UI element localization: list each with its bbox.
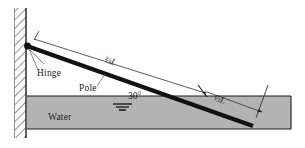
diagram-canvas: Hinge Pole Water 30° ⅔L ⅓L bbox=[0, 0, 305, 148]
hinge-label: Hinge bbox=[37, 68, 61, 78]
physics-diagram-figure: Hinge Pole Water 30° ⅔L ⅓L bbox=[0, 0, 305, 148]
water-label: Water bbox=[48, 112, 72, 122]
dimension-line-upper bbox=[34, 39, 202, 92]
angle-label: 30° bbox=[128, 91, 142, 101]
hinge-leader-line-2 bbox=[29, 49, 38, 70]
wall-hatching bbox=[15, 8, 27, 138]
pole-leader-line bbox=[97, 74, 105, 86]
hinge-pin-dot bbox=[24, 43, 31, 50]
dimension-extension-tick-left bbox=[34, 31, 39, 40]
upper-length-label: ⅔L bbox=[103, 54, 117, 67]
pole-label: Pole bbox=[79, 83, 97, 93]
wall-support bbox=[15, 8, 27, 138]
pole-callout bbox=[97, 74, 105, 86]
